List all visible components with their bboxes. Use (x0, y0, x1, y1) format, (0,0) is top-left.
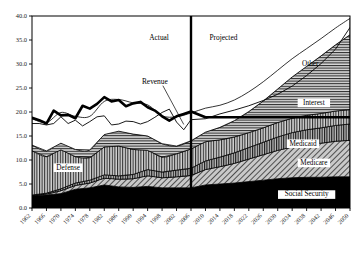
x-tick-label: 2046 (322, 212, 336, 226)
x-tick-label: 1966 (32, 212, 46, 226)
x-tick-label: 1982 (90, 212, 104, 226)
x-tick-label: 2050 (336, 212, 350, 226)
series-label-defense: Defense (56, 164, 80, 172)
x-tick-label: 2038 (293, 212, 307, 226)
x-tick-label: 2018 (220, 212, 234, 226)
series-label-social-security: Social Security (285, 190, 329, 198)
x-tick-label: 1962 (18, 212, 32, 226)
x-tick-label: 1994 (134, 212, 148, 226)
federal-budget-stacked-area-chart: 0.05.010.015.020.025.030.035.040.0 19621… (0, 0, 363, 253)
x-tick-label: 1990 (119, 212, 133, 226)
series-label-interest: Interest (303, 99, 325, 107)
chart-container: 0.05.010.015.020.025.030.035.040.0 19621… (0, 0, 363, 253)
x-tick-label: 1986 (105, 212, 119, 226)
x-tick-label: 1970 (47, 212, 61, 226)
x-axis-ticks: 1962196619701974197819821986199019941998… (18, 208, 350, 225)
x-tick-label: 2034 (278, 212, 292, 226)
y-tick-label: 15.0 (16, 132, 27, 139)
x-tick-label: 2026 (249, 212, 263, 226)
y-tick-label: 0.0 (19, 204, 27, 211)
x-tick-label: 1998 (148, 212, 162, 226)
x-tick-label: 2006 (177, 212, 191, 226)
projected-label: Projected (209, 33, 237, 42)
x-tick-label: 1978 (76, 212, 90, 226)
y-axis-ticks: 0.05.010.015.020.025.030.035.040.0 (16, 12, 32, 211)
y-tick-label: 20.0 (16, 108, 27, 115)
y-tick-label: 30.0 (16, 60, 27, 67)
y-tick-label: 25.0 (16, 84, 27, 91)
x-tick-label: 2014 (206, 212, 220, 226)
series-label-medicare: Medicare (300, 159, 327, 167)
actual-label: Actual (149, 33, 169, 42)
x-tick-label: 2022 (235, 212, 249, 226)
x-tick-label: 1974 (61, 212, 75, 226)
y-tick-label: 40.0 (16, 12, 27, 19)
x-tick-label: 2030 (264, 212, 278, 226)
series-label-other: Other (302, 60, 319, 68)
y-tick-label: 35.0 (16, 36, 27, 43)
revenue-label: Revenue (142, 77, 169, 86)
x-tick-label: 2042 (307, 212, 321, 226)
series-label-medicaid: Medicaid (289, 140, 317, 148)
x-tick-label: 2010 (191, 212, 205, 226)
y-tick-label: 5.0 (19, 180, 27, 187)
x-tick-label: 2002 (163, 212, 177, 226)
y-tick-label: 10.0 (16, 156, 27, 163)
